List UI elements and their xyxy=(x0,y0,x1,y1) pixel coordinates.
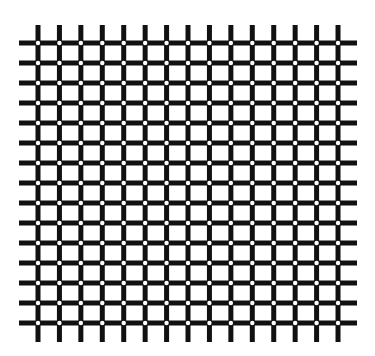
intersection-dot xyxy=(336,221,340,225)
intersection-dot xyxy=(272,141,276,145)
intersection-dot xyxy=(100,321,104,325)
intersection-dot xyxy=(79,301,83,305)
intersection-dot xyxy=(186,81,190,85)
intersection-dot xyxy=(36,181,40,185)
intersection-dot xyxy=(36,321,40,325)
intersection-dot xyxy=(57,141,61,145)
intersection-dot xyxy=(186,261,190,265)
intersection-dot xyxy=(250,181,254,185)
intersection-dot xyxy=(79,61,83,65)
intersection-dot xyxy=(229,321,233,325)
intersection-dot xyxy=(314,161,318,165)
intersection-dot xyxy=(229,281,233,285)
intersection-dot xyxy=(143,221,147,225)
intersection-dot xyxy=(36,301,40,305)
intersection-dot xyxy=(314,101,318,105)
intersection-dot xyxy=(186,121,190,125)
intersection-dot xyxy=(314,141,318,145)
intersection-dot xyxy=(36,281,40,285)
intersection-dot xyxy=(293,321,297,325)
intersection-dot xyxy=(79,261,83,265)
intersection-dot xyxy=(57,241,61,245)
intersection-dot xyxy=(57,221,61,225)
intersection-dot xyxy=(164,81,168,85)
intersection-dot xyxy=(143,121,147,125)
intersection-dot xyxy=(57,161,61,165)
intersection-dot xyxy=(122,301,126,305)
intersection-dot xyxy=(36,61,40,65)
intersection-dot xyxy=(336,301,340,305)
intersection-dot xyxy=(207,61,211,65)
intersection-dot xyxy=(100,161,104,165)
intersection-dot xyxy=(336,181,340,185)
intersection-dot xyxy=(36,81,40,85)
intersection-dot xyxy=(272,41,276,45)
intersection-dot xyxy=(79,321,83,325)
intersection-dot xyxy=(314,61,318,65)
intersection-dot xyxy=(122,281,126,285)
intersection-dot xyxy=(229,101,233,105)
intersection-dot xyxy=(336,281,340,285)
intersection-dot xyxy=(272,221,276,225)
intersection-dot xyxy=(164,281,168,285)
intersection-dot xyxy=(79,161,83,165)
intersection-dot xyxy=(164,181,168,185)
intersection-dot xyxy=(122,261,126,265)
intersection-dot xyxy=(79,181,83,185)
intersection-dot xyxy=(164,221,168,225)
intersection-dot xyxy=(250,101,254,105)
intersection-dot xyxy=(336,81,340,85)
intersection-dot xyxy=(207,181,211,185)
intersection-dot xyxy=(207,41,211,45)
intersection-dot xyxy=(293,241,297,245)
intersection-dot xyxy=(57,301,61,305)
intersection-dot xyxy=(272,321,276,325)
scintillating-grid xyxy=(0,0,375,356)
intersection-dot xyxy=(36,101,40,105)
intersection-dot xyxy=(272,101,276,105)
intersection-dot xyxy=(314,261,318,265)
intersection-dot xyxy=(143,321,147,325)
intersection-dot xyxy=(164,201,168,205)
intersection-dot xyxy=(336,201,340,205)
intersection-dot xyxy=(36,121,40,125)
intersection-dot xyxy=(36,221,40,225)
intersection-dot xyxy=(293,81,297,85)
intersection-dot xyxy=(229,181,233,185)
intersection-dot xyxy=(143,61,147,65)
intersection-dot xyxy=(186,241,190,245)
intersection-dot xyxy=(293,181,297,185)
intersection-dot xyxy=(186,221,190,225)
intersection-dot xyxy=(229,141,233,145)
intersection-dot xyxy=(100,221,104,225)
intersection-dot xyxy=(186,141,190,145)
intersection-dot xyxy=(336,241,340,245)
intersection-dot xyxy=(79,281,83,285)
intersection-dot xyxy=(272,201,276,205)
intersection-dot xyxy=(122,321,126,325)
intersection-dot xyxy=(314,41,318,45)
intersection-dot xyxy=(100,201,104,205)
intersection-dot xyxy=(250,61,254,65)
intersection-dot xyxy=(293,301,297,305)
intersection-dot xyxy=(122,161,126,165)
intersection-dot xyxy=(314,281,318,285)
intersection-dot xyxy=(122,241,126,245)
intersection-dot xyxy=(57,41,61,45)
intersection-dot xyxy=(143,281,147,285)
intersection-dot xyxy=(250,141,254,145)
intersection-dot xyxy=(79,201,83,205)
intersection-dot xyxy=(143,241,147,245)
intersection-dot xyxy=(186,161,190,165)
intersection-dot xyxy=(122,221,126,225)
intersection-dot xyxy=(57,281,61,285)
intersection-dot xyxy=(293,261,297,265)
intersection-dot xyxy=(143,301,147,305)
intersection-dot xyxy=(57,321,61,325)
intersection-dot xyxy=(272,81,276,85)
intersection-dot xyxy=(293,141,297,145)
intersection-dot xyxy=(207,201,211,205)
intersection-dot xyxy=(250,201,254,205)
intersection-dot xyxy=(293,281,297,285)
intersection-dot xyxy=(250,281,254,285)
